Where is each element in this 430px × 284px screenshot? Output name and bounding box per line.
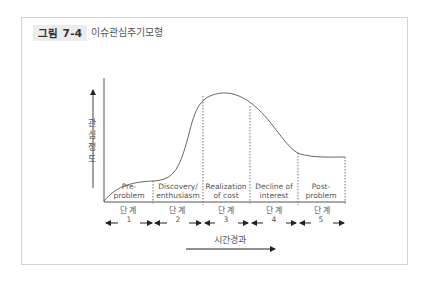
svg-text:단 계: 단 계 bbox=[169, 205, 186, 215]
svg-text:단 계: 단 계 bbox=[314, 205, 331, 215]
svg-text:Post-: Post- bbox=[312, 182, 331, 191]
svg-text:Decline of: Decline of bbox=[255, 182, 293, 191]
issue-attention-cycle-diagram: 관 심 정 도 Pre- problem Discovery/ enthusia… bbox=[0, 0, 430, 284]
svg-text:단 계: 단 계 bbox=[266, 205, 283, 215]
svg-text:enthusiasm: enthusiasm bbox=[156, 191, 200, 200]
svg-text:4: 4 bbox=[272, 215, 277, 224]
svg-text:심: 심 bbox=[88, 130, 96, 140]
svg-text:Realization: Realization bbox=[205, 182, 246, 191]
stage-names: Pre- problem Discovery/ enthusiasm Reali… bbox=[113, 182, 336, 200]
svg-text:정: 정 bbox=[88, 142, 96, 152]
svg-text:5: 5 bbox=[319, 215, 324, 224]
x-axis-label: 시간경과 bbox=[214, 234, 246, 245]
svg-text:3: 3 bbox=[224, 215, 229, 224]
svg-text:Pre-: Pre- bbox=[122, 182, 137, 191]
svg-text:1: 1 bbox=[127, 215, 132, 224]
svg-text:of cost: of cost bbox=[213, 191, 238, 200]
svg-text:2: 2 bbox=[176, 215, 181, 224]
svg-text:단 계: 단 계 bbox=[120, 205, 137, 215]
svg-text:Discovery/: Discovery/ bbox=[158, 182, 198, 191]
step-labels: 단 계 단 계 단 계 단 계 단 계 bbox=[120, 205, 331, 215]
y-axis-label: 관 심 정 도 bbox=[88, 118, 96, 164]
svg-text:interest: interest bbox=[260, 191, 289, 200]
svg-text:problem: problem bbox=[113, 191, 144, 200]
svg-text:도: 도 bbox=[88, 154, 96, 164]
svg-text:관: 관 bbox=[88, 118, 96, 128]
svg-text:problem: problem bbox=[305, 191, 336, 200]
svg-text:단 계: 단 계 bbox=[218, 205, 235, 215]
